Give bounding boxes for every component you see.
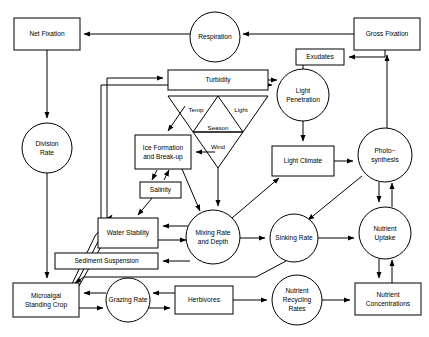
node-label-turbidity: Turbidity <box>205 76 231 84</box>
edge-ice-formation-to-salinity <box>152 170 157 180</box>
node-label-mixing-rate: Mixing Rateand Depth <box>196 228 231 245</box>
node-label-respiration: Respiration <box>198 33 232 41</box>
node-label-photosynthesis: Photo−synthesis <box>371 146 399 163</box>
edge-gross-fixation-to-exudates <box>349 50 385 57</box>
node-label-herbivores: Herbivores <box>188 296 221 303</box>
node-label-net-fixation: Net Fixation <box>29 30 65 37</box>
triangle-label-temp: Temp <box>188 106 204 113</box>
node-label-exudates: Exudates <box>306 53 334 60</box>
triangle-label-wind: Wind <box>211 143 226 150</box>
edge-mixing-rate-to-light-climate <box>232 178 279 218</box>
triangle-label-season: Season <box>208 124 230 131</box>
node-label-grazing-rate: Grazing Rate <box>109 296 148 304</box>
edge-salinity-to-ice-formation <box>164 170 169 180</box>
node-label-gross-fixation: Gross Fixation <box>366 30 409 37</box>
node-label-salinity: Salinity <box>150 186 172 194</box>
ecosystem-flow-diagram: Net FixationRespirationGross FixationExu… <box>0 0 429 337</box>
edge-salinity-to-water-stability <box>138 198 152 215</box>
edge-ice-formation-to-mixing-rate <box>182 169 200 211</box>
edge-photosynthesis-to-sinking-rate <box>308 176 362 220</box>
node-label-ice-formation: Ice Formationand Break-up <box>143 143 184 160</box>
edge-season-to-ice-formation <box>168 106 185 131</box>
diagram-canvas: Net FixationRespirationGross FixationExu… <box>0 0 429 337</box>
node-label-light-climate: Light Climate <box>284 157 323 165</box>
node-label-nutrient-uptake: NutrientUptake <box>373 224 396 241</box>
node-label-water-stability: Water Stability <box>107 229 150 237</box>
node-label-sediment-suspension: Sediment Suspension <box>74 257 138 265</box>
node-label-sinking-rate: Sinking Rate <box>275 234 313 242</box>
node-layer <box>13 12 421 325</box>
triangle-label-light: Light <box>234 106 248 113</box>
